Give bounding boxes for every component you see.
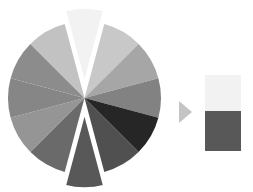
triangle-right-icon: [179, 101, 192, 123]
complementary-swatches: [205, 75, 241, 151]
light-swatch: [205, 75, 241, 111]
dark-swatch: [205, 111, 241, 151]
color-wheel: [0, 0, 175, 192]
